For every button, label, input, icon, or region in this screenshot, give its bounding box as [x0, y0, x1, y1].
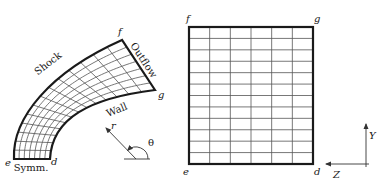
- grid-line: [45, 83, 150, 159]
- wall-label: Wall: [105, 101, 129, 119]
- corner-e-label: e: [5, 157, 11, 168]
- grid-line: [22, 123, 60, 129]
- diagram-figure: Shock Outflow Wall Symm. e d f g r θ f g…: [0, 0, 385, 185]
- rectangular-grid: [189, 27, 313, 164]
- z-axis-label: Z: [332, 169, 341, 180]
- physical-domain-panel: Shock Outflow Wall Symm. e d f g r θ: [5, 26, 164, 173]
- polar-coordinate-indicator: r θ: [106, 120, 154, 159]
- yz-axes-indicator: Y Z: [326, 124, 377, 180]
- grid-line: [80, 62, 117, 97]
- symmetry-label: Symm.: [14, 162, 49, 173]
- grid-line: [18, 132, 56, 135]
- y-axis-label: Y: [369, 130, 377, 141]
- grid-line: [27, 114, 66, 123]
- physical-domain-boundary: [14, 40, 155, 159]
- corner-g-label: g: [314, 13, 320, 24]
- grid-line: [93, 55, 129, 95]
- computational-domain-panel: f g e d Y Z: [183, 13, 377, 180]
- grid-line: [40, 76, 146, 159]
- corner-f-label: f: [117, 26, 124, 37]
- grid-line: [35, 69, 141, 159]
- r-label: r: [111, 120, 117, 131]
- domain-outline: [14, 40, 155, 159]
- corner-g-label: g: [158, 89, 164, 100]
- r-arrow-icon: [106, 128, 136, 159]
- corner-f-label: f: [185, 13, 192, 24]
- shock-label: Shock: [32, 49, 64, 77]
- corner-d-label: d: [51, 156, 57, 167]
- theta-label: θ: [148, 137, 154, 148]
- corner-e-label: e: [183, 166, 189, 177]
- corner-d-label: d: [314, 166, 320, 177]
- grid-line: [58, 79, 96, 104]
